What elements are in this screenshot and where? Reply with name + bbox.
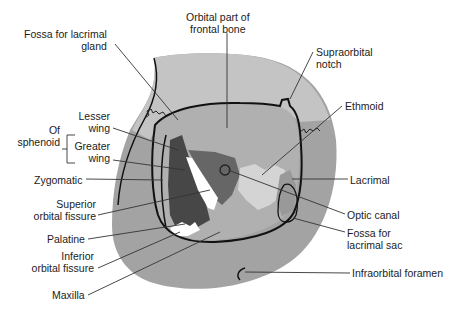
- label-fossa-lacrimal-sac: Fossa forlacrimal sac: [347, 227, 402, 251]
- label-supraorbital-notch: Supraorbitalnotch: [316, 46, 373, 70]
- label-of-sphenoid: Ofsphenoid: [14, 124, 60, 148]
- label-orbital-part-frontal-bone: Orbital part offrontal bone: [186, 11, 250, 35]
- label-lesser-wing: Lesserwing: [76, 110, 110, 134]
- label-optic-canal: Optic canal: [347, 209, 400, 221]
- label-palatine: Palatine: [47, 233, 85, 245]
- label-inferior-orbital-fissure: Inferiororbital fissure: [28, 250, 94, 274]
- label-superior-orbital-fissure: Superiororbital fissure: [30, 198, 96, 222]
- label-zygomatic: Zygomatic: [34, 174, 82, 186]
- label-lacrimal: Lacrimal: [350, 174, 390, 186]
- label-greater-wing: Greaterwing: [70, 140, 110, 164]
- label-fossa-lacrimal-gland: Fossa for lacrimalgland: [24, 28, 107, 52]
- label-maxilla: Maxilla: [52, 289, 85, 301]
- label-infraorbital-foramen: Infraorbital foramen: [352, 267, 443, 279]
- label-ethmoid: Ethmoid: [345, 100, 384, 112]
